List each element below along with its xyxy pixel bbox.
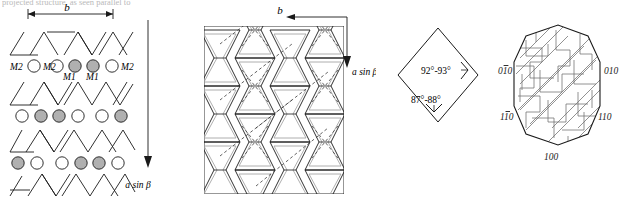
svg-text:110: 110 <box>500 112 514 122</box>
site-label-m1-right: M1 <box>85 72 99 82</box>
site-label-m1-left: M1 <box>62 72 76 82</box>
panel-bowtie-lattice: b a sin β <box>196 0 376 197</box>
panel-projected-structure: b M2 M2 M2 M1 M1 a sin β <box>0 0 200 197</box>
triangle-row-2 <box>10 82 133 105</box>
b-dimension-arrow <box>28 9 113 19</box>
triangle-row-3 <box>10 130 135 152</box>
angle-marker-upper <box>461 62 468 79</box>
angle-lower-label: 87°-88° <box>411 95 441 105</box>
site-label-m2-right-outer: M2 <box>120 62 134 72</box>
panel-b-b-label: b <box>277 4 283 16</box>
angle-upper-label: 92°-93° <box>421 66 451 76</box>
crystal-striations <box>516 26 600 148</box>
site-label-m2-left-inner: M2 <box>42 62 56 72</box>
hourglass-chains <box>200 2 345 197</box>
panel-a-b-label: b <box>64 1 70 13</box>
face-label-1-1bar-0: 110 <box>500 112 514 123</box>
panel-b-b-arrow <box>286 14 351 68</box>
octagon-outline <box>514 25 600 145</box>
face-label-100: 100 <box>544 152 559 162</box>
face-label-0-1bar-0: 010 <box>498 66 513 77</box>
svg-text:010: 010 <box>498 66 513 76</box>
panel-a-a-sin-beta-label: a sin β <box>125 180 151 190</box>
face-label-010: 010 <box>604 66 619 76</box>
circle-row-2 <box>16 110 127 122</box>
panel-crystal-habit: 010 010 110 110 100 <box>496 0 623 197</box>
circle-row-3 <box>12 157 124 169</box>
triangle-row-1 <box>10 32 133 55</box>
site-label-m2-left-outer: M2 <box>9 62 23 72</box>
face-label-110: 110 <box>598 112 612 122</box>
triangle-row-4 <box>10 174 135 196</box>
circle-row-1 <box>28 60 118 72</box>
panel-b-a-sin-beta-label: a sin β <box>352 67 376 77</box>
panel-angle-diamond: 92°-93° 87°-88° <box>390 0 510 197</box>
a-sin-beta-arrow <box>144 20 152 168</box>
